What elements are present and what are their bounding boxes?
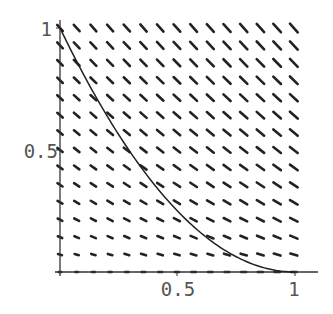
field-arrow: [207, 147, 214, 152]
direction-field-arrows: [57, 24, 298, 272]
field-arrow: [124, 60, 130, 66]
field-arrow: [157, 130, 163, 135]
field-arrow: [74, 113, 80, 118]
field-arrow: [174, 165, 180, 170]
field-arrow: [91, 236, 96, 238]
field-arrow: [141, 218, 147, 221]
field-arrow: [257, 59, 264, 67]
field-arrow: [240, 165, 247, 170]
field-arrow: [257, 218, 264, 222]
field-arrow: [124, 42, 130, 49]
field-arrow: [174, 218, 180, 221]
field-arrow: [190, 130, 197, 136]
field-arrow: [207, 42, 214, 49]
field-arrow: [240, 42, 247, 50]
field-arrow: [157, 77, 163, 83]
field-arrow: [174, 77, 181, 83]
field-arrow: [207, 183, 214, 187]
field-arrow: [107, 42, 113, 48]
field-arrow: [107, 148, 113, 152]
field-arrow: [240, 59, 247, 66]
field-arrow: [191, 254, 197, 256]
field-arrow: [207, 94, 214, 100]
field-arrow: [224, 165, 231, 170]
field-arrow: [107, 25, 113, 32]
field-arrow: [257, 182, 264, 187]
field-arrow: [223, 42, 230, 50]
field-arrow: [207, 218, 213, 221]
field-arrow: [240, 147, 247, 153]
field-arrow: [207, 165, 214, 170]
field-arrow: [207, 24, 214, 32]
field-arrow: [257, 254, 263, 256]
field-arrow: [140, 77, 146, 83]
field-arrow: [190, 147, 197, 152]
field-arrow: [224, 254, 230, 256]
field-arrow: [190, 42, 197, 49]
field-arrow: [207, 77, 214, 84]
field-arrow: [223, 77, 230, 84]
field-arrow: [74, 183, 79, 186]
field-arrow: [74, 25, 80, 31]
y-tick-label-1: 1: [41, 18, 52, 40]
field-arrow: [124, 130, 130, 135]
field-arrow: [91, 183, 96, 187]
field-arrow: [124, 236, 129, 238]
field-arrow: [290, 218, 297, 222]
field-arrow: [207, 112, 214, 118]
field-arrow: [124, 112, 130, 117]
field-arrow: [91, 201, 96, 204]
field-arrow: [240, 183, 247, 188]
field-arrow: [257, 147, 264, 153]
field-arrow: [257, 24, 264, 32]
field-arrow: [224, 147, 231, 152]
field-arrow: [240, 218, 247, 221]
field-arrow: [75, 254, 79, 255]
field-arrow: [74, 218, 79, 220]
field-arrow: [107, 130, 113, 135]
field-arrow: [290, 41, 298, 49]
field-arrow: [107, 183, 113, 187]
field-arrow: [273, 147, 281, 153]
field-arrow: [273, 94, 281, 101]
field-arrow: [190, 95, 197, 101]
field-arrow: [174, 24, 181, 31]
field-arrow: [190, 218, 196, 221]
field-arrow: [91, 165, 97, 169]
field-arrow: [124, 95, 130, 101]
field-arrow: [257, 94, 264, 101]
field-arrow: [257, 41, 264, 49]
field-arrow: [273, 200, 280, 204]
field-arrow: [91, 130, 97, 135]
field-arrow: [107, 60, 113, 66]
field-arrow: [240, 200, 247, 204]
field-arrow: [107, 95, 113, 101]
field-arrow: [174, 147, 180, 152]
field-arrow: [174, 200, 180, 204]
field-arrow: [140, 24, 146, 31]
field-arrow: [240, 94, 247, 101]
field-arrow: [174, 95, 181, 101]
field-arrow: [257, 129, 264, 135]
field-arrow: [124, 201, 130, 204]
field-arrow: [157, 24, 164, 31]
field-arrow: [223, 59, 230, 66]
field-arrow: [174, 236, 180, 238]
field-arrow: [124, 254, 129, 255]
field-arrow: [257, 112, 264, 119]
field-arrow: [157, 60, 163, 67]
field-arrow: [207, 59, 214, 66]
field-arrow: [224, 200, 231, 204]
field-arrow: [257, 200, 264, 204]
y-tick-label-0.5: 0.5: [24, 140, 58, 162]
field-arrow: [224, 218, 231, 221]
field-arrow: [290, 112, 298, 119]
x-tick-label-0.5: 0.5: [161, 278, 195, 300]
field-arrow: [124, 25, 130, 32]
field-arrow: [124, 218, 129, 221]
field-arrow: [74, 130, 79, 135]
field-arrow: [190, 24, 197, 32]
field-arrow: [273, 112, 281, 119]
field-arrow: [240, 130, 247, 136]
field-arrow: [107, 165, 113, 169]
